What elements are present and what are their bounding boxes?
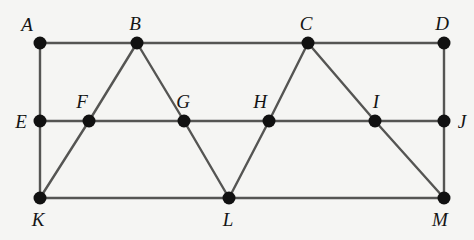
vertex-label-f: F xyxy=(76,92,88,111)
diagonal-H-C-edge xyxy=(269,43,308,121)
vertex-label-g: G xyxy=(176,92,190,111)
vertex-point-b xyxy=(131,37,144,50)
diagonal-G-L-edge xyxy=(184,121,229,198)
vertex-label-e: E xyxy=(15,112,27,131)
diagonal-L-H-edge xyxy=(229,121,269,198)
diagonal-I-M-edge xyxy=(375,121,444,198)
diagonal-K-F-edge xyxy=(40,121,89,198)
vertex-label-h: H xyxy=(253,92,267,111)
vertex-label-m: M xyxy=(432,210,448,229)
vertex-point-l xyxy=(223,192,236,205)
vertex-point-i xyxy=(369,115,382,128)
diagonal-F-B-edge xyxy=(89,43,137,121)
vertex-point-k xyxy=(34,192,47,205)
vertex-point-m xyxy=(438,192,451,205)
vertex-label-l: L xyxy=(223,210,234,229)
vertex-label-a: A xyxy=(21,15,33,34)
vertex-label-j: J xyxy=(458,112,466,131)
vertex-point-j xyxy=(438,115,451,128)
vertex-label-c: C xyxy=(300,14,313,33)
edge-layer xyxy=(40,43,444,198)
vertex-point-d xyxy=(438,37,451,50)
diagram-canvas: ABCDEFGHIJKLM xyxy=(0,0,474,240)
vertex-point-e xyxy=(34,115,47,128)
vertex-point-h xyxy=(263,115,276,128)
vertex-label-b: B xyxy=(129,14,141,33)
vertex-point-c xyxy=(302,37,315,50)
vertex-point-f xyxy=(83,115,96,128)
vertex-label-k: K xyxy=(32,210,45,229)
vertex-point-a xyxy=(34,37,47,50)
figure-svg xyxy=(0,0,474,240)
diagonal-C-I-edge xyxy=(308,43,375,121)
vertex-label-d: D xyxy=(435,14,449,33)
vertex-label-i: I xyxy=(373,92,379,111)
vertex-point-g xyxy=(178,115,191,128)
